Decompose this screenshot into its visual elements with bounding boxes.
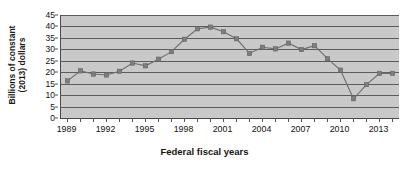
x-tick-mark [366,118,367,122]
x-tick-mark [210,118,211,122]
chart-figure: Billions of constant (2013) dollars 0510… [0,0,409,173]
data-point-marker [143,64,147,68]
y-tick-label: 45 [46,10,55,20]
data-point-marker [221,30,225,34]
x-axis-tick-labels: 198919921995199820012004200720102013 [0,124,409,138]
data-point-marker [299,47,303,51]
data-point-marker [65,79,69,83]
x-tick-mark [80,118,81,122]
y-tick-mark [55,37,58,38]
data-point-marker [390,71,394,75]
data-point-marker [117,69,121,73]
series-polyline [68,27,393,99]
data-point-marker [247,51,251,55]
y-tick-mark [55,26,58,27]
data-point-marker [351,97,355,101]
y-tick-label: 35 [46,33,55,43]
x-tick-mark [184,118,185,122]
data-point-marker [312,43,316,47]
data-point-marker [169,49,173,53]
data-point-marker [325,57,329,61]
x-tick-mark [158,118,159,122]
data-point-marker [234,37,238,41]
data-point-marker [377,71,381,75]
x-tick-mark [197,118,198,122]
x-tick-mark [340,118,341,122]
x-tick-label: 2007 [291,124,311,134]
x-tick-mark [132,118,133,122]
data-point-marker [208,25,212,29]
x-tick-label: 1992 [96,124,116,134]
y-tick-label: 40 [46,21,55,31]
x-axis-title: Federal fiscal years [0,146,409,157]
x-tick-mark [392,118,393,122]
x-tick-label: 2010 [330,124,350,134]
y-tick-mark [55,83,58,84]
x-tick-mark [119,118,120,122]
x-tick-mark [327,118,328,122]
x-tick-mark [67,118,68,122]
x-tick-mark [145,118,146,122]
x-tick-mark [301,118,302,122]
plot-area [60,15,399,119]
data-point-marker [364,82,368,86]
data-series-line [61,15,399,118]
x-tick-mark [171,118,172,122]
x-tick-mark [379,118,380,122]
y-tick-label: 25 [46,56,55,66]
y-tick-mark [55,72,58,73]
data-point-marker [182,37,186,41]
data-point-marker [78,69,82,73]
x-tick-mark [236,118,237,122]
data-point-marker [91,72,95,76]
y-axis-title-line-2: (2013) dollars [17,26,27,105]
y-axis-title: Billions of constant (2013) dollars [4,0,30,130]
x-tick-mark [353,118,354,122]
x-tick-label: 2001 [213,124,233,134]
x-tick-mark [93,118,94,122]
data-point-marker [195,27,199,31]
y-tick-mark [55,15,58,16]
x-tick-label: 2004 [252,124,272,134]
x-tick-label: 1989 [57,124,77,134]
data-point-marker [130,61,134,65]
y-tick-label: 10 [46,90,55,100]
y-tick-mark [55,106,58,107]
x-tick-mark [314,118,315,122]
y-axis-ticks: 051015202530354045 [30,0,58,130]
data-point-marker [104,73,108,77]
data-point-marker [338,68,342,72]
data-point-marker [260,45,264,49]
x-tick-mark [223,118,224,122]
y-tick-label: 20 [46,67,55,77]
x-tick-mark [249,118,250,122]
x-tick-mark [275,118,276,122]
x-tick-mark [106,118,107,122]
x-tick-label: 1998 [174,124,194,134]
y-tick-mark [55,49,58,50]
x-tick-mark [288,118,289,122]
y-tick-label: 30 [46,44,55,54]
y-tick-mark [55,118,58,119]
data-point-marker [156,57,160,61]
data-point-marker [273,47,277,51]
y-axis-title-line-1: Billions of constant [7,26,17,105]
x-tick-mark [262,118,263,122]
y-tick-label: 15 [46,79,55,89]
x-tick-label: 2013 [369,124,389,134]
data-point-marker [286,41,290,45]
x-tick-label: 1995 [135,124,155,134]
y-tick-mark [55,60,58,61]
y-tick-mark [55,95,58,96]
